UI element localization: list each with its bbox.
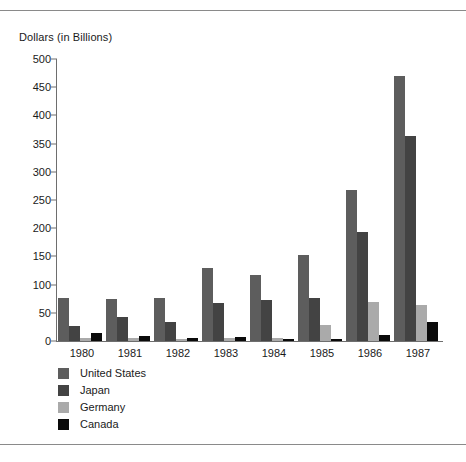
- bar-canada-1985[interactable]: [331, 339, 342, 341]
- bar-germany-1986[interactable]: [368, 302, 379, 341]
- y-axis-tick-label: 400: [33, 109, 51, 121]
- legend-item-germany[interactable]: Germany: [58, 400, 146, 414]
- bar-germany-1980[interactable]: [80, 338, 91, 341]
- legend-item-label: Canada: [80, 418, 119, 430]
- bar-japan-1983[interactable]: [213, 303, 224, 341]
- x-axis-tick-label: 1987: [388, 347, 448, 359]
- bar-germany-1984[interactable]: [272, 338, 283, 341]
- bar-germany-1982[interactable]: [176, 339, 187, 341]
- legend-swatch-icon: [58, 368, 69, 379]
- y-axis-tick-mark: [51, 200, 57, 201]
- bar-united-states-1982[interactable]: [154, 298, 165, 341]
- bar-united-states-1984[interactable]: [250, 275, 261, 341]
- y-axis-line: [56, 59, 57, 342]
- bar-japan-1980[interactable]: [69, 326, 80, 341]
- legend-item-label: Germany: [80, 401, 125, 413]
- bar-japan-1984[interactable]: [261, 300, 272, 341]
- bar-japan-1987[interactable]: [405, 136, 416, 341]
- legend-item-japan[interactable]: Japan: [58, 383, 146, 397]
- bar-canada-1983[interactable]: [235, 337, 246, 342]
- bar-group: [346, 59, 390, 341]
- bar-canada-1982[interactable]: [187, 338, 198, 341]
- bar-group: [58, 59, 102, 341]
- bar-canada-1980[interactable]: [91, 333, 102, 341]
- x-axis-line: [56, 341, 443, 342]
- y-axis-tick-label: 500: [33, 53, 51, 65]
- bar-united-states-1987[interactable]: [394, 76, 405, 341]
- y-axis-tick-label: 200: [33, 222, 51, 234]
- y-axis-tick-mark: [51, 312, 57, 313]
- bar-united-states-1980[interactable]: [58, 298, 69, 341]
- bar-united-states-1985[interactable]: [298, 255, 309, 341]
- y-axis-tick-mark: [51, 171, 57, 172]
- bar-united-states-1986[interactable]: [346, 190, 357, 341]
- bar-japan-1981[interactable]: [117, 317, 128, 341]
- bar-canada-1986[interactable]: [379, 335, 390, 341]
- y-axis-title: Dollars (in Billions): [19, 31, 112, 43]
- y-axis-tick-label: 250: [33, 194, 51, 206]
- bar-germany-1987[interactable]: [416, 305, 427, 341]
- y-axis-tick-mark: [51, 341, 57, 342]
- bottom-divider-rule: [0, 444, 466, 445]
- y-axis-tick-label: 150: [33, 250, 51, 262]
- bar-group: [202, 59, 246, 341]
- bar-canada-1984[interactable]: [283, 339, 294, 341]
- y-axis-tick-mark: [51, 228, 57, 229]
- chart-legend: United StatesJapanGermanyCanada: [58, 366, 146, 434]
- bar-canada-1981[interactable]: [139, 336, 150, 341]
- legend-swatch-icon: [58, 419, 69, 430]
- legend-swatch-icon: [58, 385, 69, 396]
- bar-japan-1986[interactable]: [357, 232, 368, 341]
- bar-united-states-1983[interactable]: [202, 268, 213, 341]
- y-axis-tick-mark: [51, 143, 57, 144]
- bar-germany-1985[interactable]: [320, 325, 331, 341]
- bar-germany-1981[interactable]: [128, 338, 139, 341]
- bar-group: [250, 59, 294, 341]
- bar-united-states-1981[interactable]: [106, 299, 117, 341]
- y-axis-tick-mark: [51, 256, 57, 257]
- y-axis-tick-label: 350: [33, 138, 51, 150]
- bar-germany-1983[interactable]: [224, 338, 235, 341]
- bar-group: [106, 59, 150, 341]
- bar-group: [154, 59, 198, 341]
- bar-group: [394, 59, 438, 341]
- y-axis-tick-mark: [51, 87, 57, 88]
- legend-swatch-icon: [58, 402, 69, 413]
- bar-group: [298, 59, 342, 341]
- y-axis-tick-label: 450: [33, 81, 51, 93]
- legend-item-label: Japan: [80, 384, 110, 396]
- legend-item-canada[interactable]: Canada: [58, 417, 146, 431]
- y-axis-tick-label: 100: [33, 279, 51, 291]
- bar-japan-1985[interactable]: [309, 298, 320, 341]
- bar-canada-1987[interactable]: [427, 322, 438, 341]
- legend-item-label: United States: [80, 367, 146, 379]
- y-axis-tick-label: 50: [39, 307, 51, 319]
- y-axis-tick-mark: [51, 284, 57, 285]
- y-axis-tick-mark: [51, 59, 57, 60]
- y-axis-tick-label: 300: [33, 166, 51, 178]
- y-axis-tick-mark: [51, 115, 57, 116]
- bar-japan-1982[interactable]: [165, 322, 176, 341]
- top-divider-rule: [0, 10, 466, 11]
- legend-item-united-states[interactable]: United States: [58, 366, 146, 380]
